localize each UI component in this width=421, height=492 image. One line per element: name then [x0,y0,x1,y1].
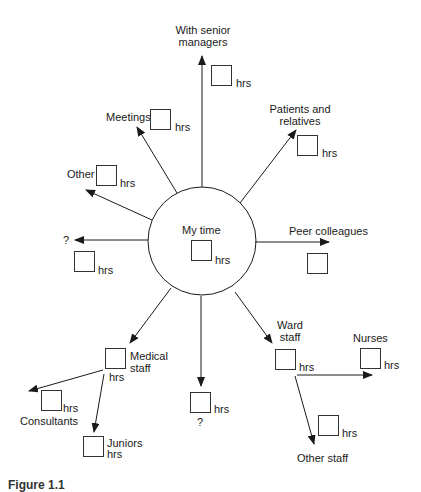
unknown-left-hours-unit: hrs [98,264,113,276]
ward-staff-label: Ward staff [274,319,306,343]
senior-managers-label-line1: With senior [168,24,238,36]
other-label: Other [67,168,95,180]
patients-hours-box[interactable] [297,135,318,156]
center-hours-unit: hrs [215,254,230,266]
center-label: My time [182,224,221,236]
other-hours-box[interactable] [96,165,117,186]
meetings-hours-unit: hrs [175,121,190,133]
medical-staff-label: Medical staff [130,350,168,374]
nurses-label: Nurses [353,332,388,344]
meetings-label: Meetings [106,111,151,123]
arrow-consultants [29,370,103,391]
arrow-ward-staff [235,292,272,343]
juniors-hours-box[interactable] [83,436,104,457]
medical-staff-hours-unit: hrs [109,371,124,383]
senior-managers-hours-unit: hrs [236,77,251,89]
senior-managers-label-line2: managers [168,36,238,48]
meetings-hours-box[interactable] [150,109,171,130]
unknown-down-hours-unit: hrs [214,403,229,415]
arrow-other-staff [295,376,314,444]
senior-managers-label: With senior managers [168,24,238,48]
patients-hours-unit: hrs [322,147,337,159]
ward-staff-hours-box[interactable] [275,349,296,370]
unknown-down-hours-box[interactable] [190,392,211,413]
unknown-left-hours-box[interactable] [74,251,95,272]
ward-staff-hours-unit: hrs [299,361,314,373]
medical-staff-label-line2: staff [130,362,168,374]
patients-label-line2: relatives [265,115,335,127]
arrow-patients [240,130,296,203]
unknown-down-label: ? [197,416,203,428]
consultants-hours-box[interactable] [41,390,62,411]
other-staff-hours-box[interactable] [318,415,339,436]
nurses-hours-box[interactable] [360,348,381,369]
ward-staff-label-line2: staff [274,331,306,343]
arrow-medical-staff [130,288,171,343]
other-hours-unit: hrs [120,177,135,189]
unknown-left-label: ? [63,234,69,246]
ward-staff-label-line1: Ward [274,319,306,331]
other-staff-hours-unit: hrs [342,427,357,439]
peer-hours-box[interactable] [307,253,328,274]
figure-caption: Figure 1.1 [8,478,65,492]
patients-label: Patients and relatives [265,103,335,127]
arrow-other [86,190,152,220]
arrow-meetings [137,127,177,193]
other-staff-label: Other staff [297,452,348,464]
juniors-hours-unit: hrs [107,448,122,460]
consultants-label: Consultants [20,415,78,427]
patients-label-line1: Patients and [265,103,335,115]
nurses-hours-unit: hrs [384,359,399,371]
consultants-hours-unit: hrs [63,402,78,414]
medical-staff-label-line1: Medical [130,350,168,362]
senior-managers-hours-box[interactable] [211,65,232,86]
peer-label: Peer colleagues [289,225,368,237]
medical-staff-hours-box[interactable] [105,348,126,369]
center-hours-box[interactable] [191,240,212,261]
arrow-juniors [94,374,104,432]
